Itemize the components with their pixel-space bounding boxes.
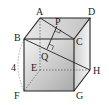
label-H: H [93, 65, 100, 76]
label-E: E [31, 62, 37, 73]
label-F: F [14, 90, 20, 101]
cube-figure: A D B C P Q E H 4 F G [0, 0, 109, 105]
label-G: G [76, 90, 83, 101]
cube-diagram: A D B C P Q E H 4 F G [0, 0, 109, 105]
label-P: P [55, 16, 61, 27]
label-edge-length: 4 [11, 62, 16, 73]
dimension-arc [18, 39, 24, 91]
label-D: D [88, 6, 95, 17]
label-C: C [76, 36, 83, 47]
label-A: A [36, 6, 44, 17]
label-B: B [14, 32, 21, 43]
label-Q: Q [41, 51, 49, 62]
